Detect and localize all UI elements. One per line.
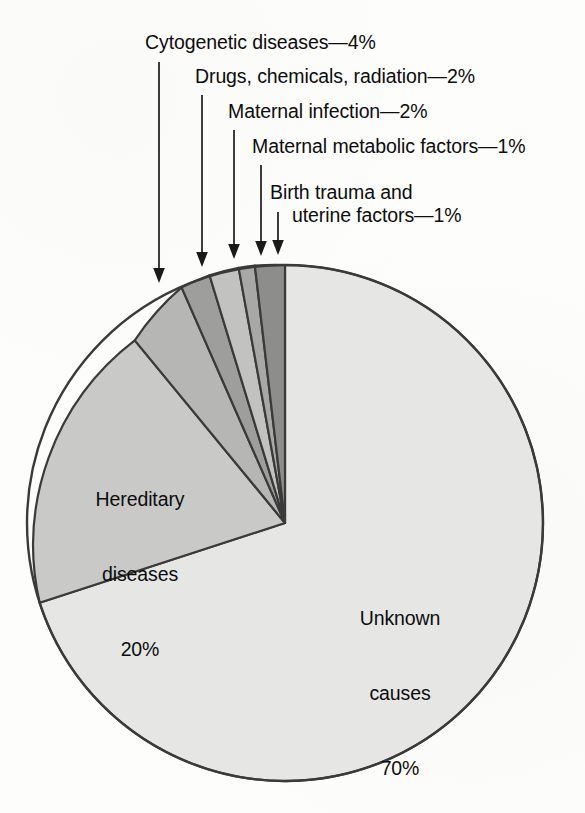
callout-label-birth-trauma-line2: uterine factors—1% — [292, 203, 461, 227]
slice-label-unknown-causes: Unknown causes 70% — [320, 556, 480, 813]
arrowhead-birth-trauma — [272, 240, 284, 255]
callout-label-birth-trauma-line1: Birth trauma and — [270, 180, 413, 204]
arrowhead-maternal-infection — [228, 244, 240, 259]
callout-label-maternal-infection: Maternal infection—2% — [228, 99, 428, 123]
callout-label-drugs: Drugs, chemicals, radiation—2% — [195, 64, 475, 88]
slice-label-hereditary: Hereditary diseases 20% — [60, 437, 220, 712]
arrowhead-drugs — [196, 252, 208, 267]
slice-label-hereditary-line3: 20% — [60, 637, 220, 662]
arrowhead-maternal-metabolic — [255, 241, 267, 256]
pie-chart-figure: Cytogenetic diseases—4% Drugs, chemicals… — [0, 0, 585, 813]
callout-label-cytogenetic: Cytogenetic diseases—4% — [145, 30, 376, 54]
slice-label-unknown-line1: Unknown — [320, 606, 480, 631]
slice-label-unknown-line2: causes — [320, 681, 480, 706]
arrowhead-cytogenetic — [153, 268, 165, 283]
callout-label-maternal-metabolic: Maternal metabolic factors—1% — [252, 134, 525, 158]
slice-label-hereditary-line1: Hereditary — [60, 487, 220, 512]
slice-label-hereditary-line2: diseases — [60, 562, 220, 587]
slice-label-unknown-line3: 70% — [320, 756, 480, 781]
callout-leader-lines — [159, 62, 278, 272]
